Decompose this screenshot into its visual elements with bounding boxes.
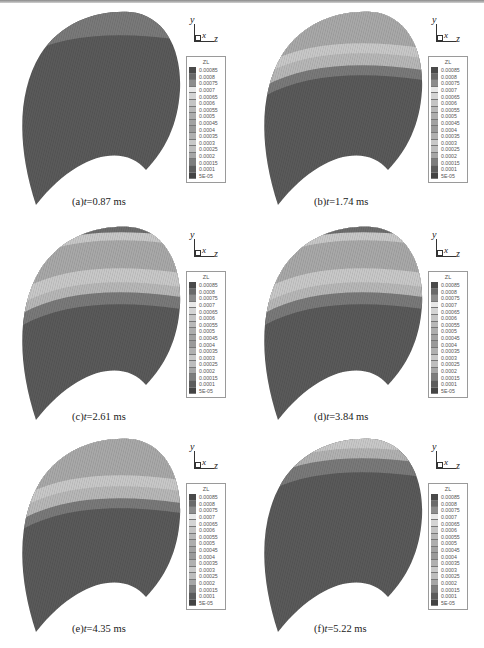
legend-swatch (431, 308, 438, 315)
legend-value: 0.00075 (199, 295, 218, 301)
legend-swatch (189, 146, 196, 153)
legend-swatch (431, 282, 438, 289)
caption-value: =4.35 ms (87, 623, 126, 634)
legend-value: 0.0006 (441, 527, 457, 533)
legend-swatch (189, 282, 196, 289)
legend-swatch (189, 335, 196, 342)
legend-swatch (189, 173, 196, 180)
legend-entry: 0.0003 (189, 355, 223, 362)
legend-value: 0.0001 (441, 381, 457, 387)
legend-swatch (189, 553, 196, 560)
legend-entry: 5E-05 (189, 388, 223, 395)
legend-entry: 0.00065 (431, 308, 465, 315)
legend-swatch (431, 322, 438, 329)
legend-swatch (189, 348, 196, 355)
x-axis-label: x (202, 30, 206, 40)
legend-value: 0.0005 (199, 540, 215, 546)
legend-value: 0.00035 (199, 560, 218, 566)
legend-swatch (431, 600, 438, 607)
legend-value: 0.0007 (441, 87, 457, 93)
legend-entry: 0.00025 (431, 146, 465, 153)
legend-entry: 0.00075 (431, 295, 465, 302)
legend-value: 0.0004 (199, 127, 215, 133)
legend-swatch (189, 494, 196, 501)
legend-value: 0.00025 (441, 573, 460, 579)
axis-triad-icon: y x z (188, 231, 218, 261)
contour-legend: ZL 0.000850.00080.000750.00070.000650.00… (428, 483, 468, 610)
legend-entry: 0.0005 (189, 540, 223, 547)
legend-title: ZL (431, 486, 465, 492)
legend-swatch (431, 295, 438, 302)
legend-value: 0.0006 (199, 315, 215, 321)
legend-entry: 0.00075 (189, 80, 223, 87)
legend-swatch (189, 567, 196, 574)
legend-value: 0.0004 (199, 554, 215, 560)
legend-swatch (189, 322, 196, 329)
legend-entry: 0.00085 (431, 282, 465, 289)
legend-swatch (189, 74, 196, 81)
legend-swatch (431, 133, 438, 140)
legend-value: 0.0006 (199, 100, 215, 106)
contour-legend: ZL 0.000850.00080.000750.00070.000650.00… (186, 56, 226, 183)
legend-swatch (189, 507, 196, 514)
contour-panel-d: y x z ZL 0.000850.00080.000750.00070.000… (242, 215, 484, 427)
legend-value: 0.00065 (199, 521, 218, 527)
caption-value: =2.61 ms (87, 411, 126, 422)
legend-value: 0.0003 (441, 355, 457, 361)
legend-value: 0.00035 (441, 133, 460, 139)
legend-entry: 0.00025 (431, 573, 465, 580)
caption-value: =3.84 ms (329, 411, 368, 422)
legend-value: 0.0007 (441, 302, 457, 308)
legend-swatch (431, 328, 438, 335)
legend-entry: 0.00035 (189, 133, 223, 140)
legend-swatch (189, 93, 196, 100)
legend-entry: 0.00065 (431, 93, 465, 100)
legend-entry: 0.00035 (189, 348, 223, 355)
legend-value: 5E-05 (441, 388, 455, 394)
legend-value: 0.00015 (199, 375, 218, 381)
legend-swatch (431, 126, 438, 133)
legend-swatch (431, 355, 438, 362)
legend-value: 0.00045 (199, 547, 218, 553)
legend-entry: 0.0006 (189, 527, 223, 534)
legend-value: 0.00055 (199, 107, 218, 113)
contour-panel-b: y x z ZL 0.000850.00080.000750.00070.000… (242, 0, 484, 212)
legend-entry: 0.0006 (431, 315, 465, 322)
legend-swatch (189, 289, 196, 296)
legend-value: 0.0006 (441, 315, 457, 321)
legend-swatch (189, 368, 196, 375)
legend-entry: 0.00055 (431, 322, 465, 329)
legend-swatch (431, 547, 438, 554)
legend-value: 0.00055 (199, 534, 218, 540)
panel-caption: (f)t=5.22 ms (314, 623, 367, 634)
legend-entry: 0.0002 (189, 153, 223, 160)
panel-caption: (c)t=2.61 ms (72, 411, 126, 422)
legend-value: 0.00085 (441, 282, 460, 288)
legend-swatch (431, 67, 438, 74)
legend-entry: 5E-05 (189, 173, 223, 180)
legend-entry: 0.00015 (189, 586, 223, 593)
caption-prefix: (a) (72, 196, 84, 207)
legend-swatch (189, 80, 196, 87)
z-axis-label: z (214, 248, 218, 259)
legend-swatch (189, 315, 196, 322)
legend-swatch (189, 514, 196, 521)
legend-swatch (431, 540, 438, 547)
legend-swatch (431, 593, 438, 600)
legend-swatch (189, 159, 196, 166)
legend-entry: 0.00015 (431, 586, 465, 593)
legend-value: 0.00035 (441, 348, 460, 354)
legend-value: 5E-05 (441, 600, 455, 606)
legend-value: 5E-05 (199, 173, 213, 179)
contour-panel-e: y x z ZL 0.000850.00080.000750.00070.000… (0, 427, 242, 639)
legend-value: 0.00015 (441, 587, 460, 593)
legend-entry: 0.0003 (189, 140, 223, 147)
legend-entry: 0.0001 (189, 593, 223, 600)
legend-value: 0.0007 (441, 514, 457, 520)
legend-entry: 0.00025 (189, 361, 223, 368)
legend-entry: 0.00045 (431, 335, 465, 342)
legend-entry: 0.0007 (189, 302, 223, 309)
legend-swatch (189, 153, 196, 160)
legend-entry: 0.0005 (189, 113, 223, 120)
legend-swatch (431, 93, 438, 100)
